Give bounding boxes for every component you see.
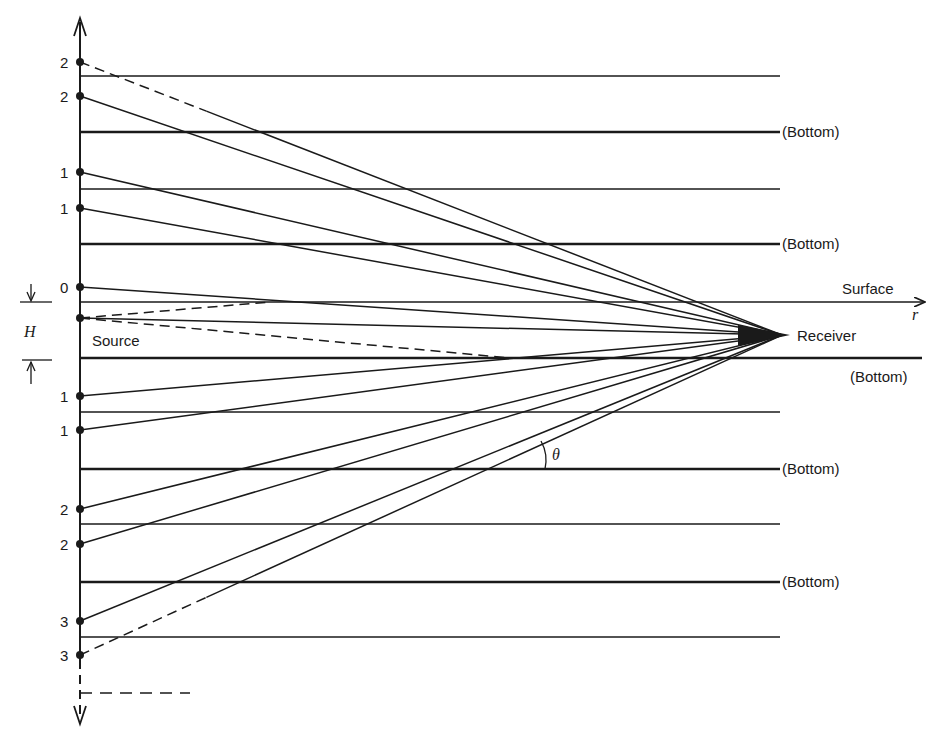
bottom-label: (Bottom) (782, 123, 840, 140)
bottom-label: (Bottom) (782, 235, 840, 252)
image-order-label: 1 (60, 200, 68, 217)
angle-theta-label: θ (552, 446, 560, 463)
image-source-dot (76, 617, 84, 625)
image-source-dot (76, 283, 84, 291)
image-source-dot (76, 168, 84, 176)
depth-dimension-H: H (20, 284, 52, 384)
image-order-label: 1 (60, 422, 68, 439)
image-source-dot (76, 540, 84, 548)
image-source-diagram: (Bottom)(Bottom)(Bottom)(Bottom)(Bottom)… (0, 0, 948, 741)
image-order-label: 2 (60, 536, 68, 553)
bottom-label: (Bottom) (782, 460, 840, 477)
image-source-dot (76, 651, 84, 659)
surface-label: Surface (842, 280, 894, 297)
layer-lines: (Bottom)(Bottom)(Bottom)(Bottom)(Bottom) (80, 76, 925, 637)
image-source-dot (76, 426, 84, 434)
image-order-label: 2 (60, 54, 68, 71)
depth-axis (74, 18, 190, 724)
image-order-label: 3 (60, 647, 68, 664)
image-source-dot (76, 204, 84, 212)
image-order-label: 0 (60, 279, 68, 296)
image-order-label: 1 (60, 388, 68, 405)
depth-H-label: H (23, 323, 37, 340)
source-label: Source (92, 332, 140, 349)
image-source-dot (76, 92, 84, 100)
image-order-label: 3 (60, 613, 68, 630)
bottom-label: (Bottom) (850, 368, 908, 385)
receiver-label: Receiver (797, 327, 856, 344)
source-dot (76, 314, 84, 322)
image-order-label: 2 (60, 88, 68, 105)
r-axis-label: r (912, 306, 919, 323)
bottom-label: (Bottom) (782, 573, 840, 590)
image-source-dot (76, 392, 84, 400)
image-order-label: 2 (60, 501, 68, 518)
image-order-label: 1 (60, 164, 68, 181)
image-source-dot (76, 505, 84, 513)
image-source-dot (76, 58, 84, 66)
